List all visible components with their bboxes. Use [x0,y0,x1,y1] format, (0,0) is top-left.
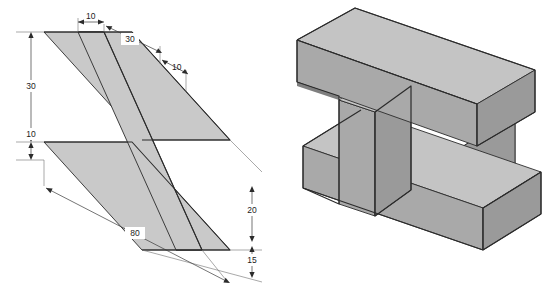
web-front-face [339,100,375,216]
dimension-bottom-80-label: 80 [130,228,140,238]
pictorial-view-svg [279,0,558,303]
orthographic-oblique-view: 30 10 10 30 [0,0,279,303]
dimension-right-15: 15 [243,246,261,278]
dimension-top-10-left: 10 [78,11,104,24]
dimension-left-10-label: 10 [26,129,36,139]
dimension-right-15-label: 15 [247,255,257,265]
isometric-pictorial-view [279,0,558,303]
dimension-left-10: 10 [22,128,40,160]
oblique-view-svg: 30 10 10 30 [0,0,279,303]
dimension-top-30-label: 30 [125,34,135,44]
dimension-right-20-label: 20 [247,205,257,215]
dimension-top-10-right-label: 10 [172,62,182,72]
dimension-left-30-label: 30 [26,81,36,91]
dimension-left-30: 30 [22,32,40,142]
dimension-top-10-left-label: 10 [86,11,96,21]
section-faces [44,32,230,250]
figure-sheet: 30 10 10 30 [0,0,558,303]
dimension-right-20: 20 [243,186,261,242]
